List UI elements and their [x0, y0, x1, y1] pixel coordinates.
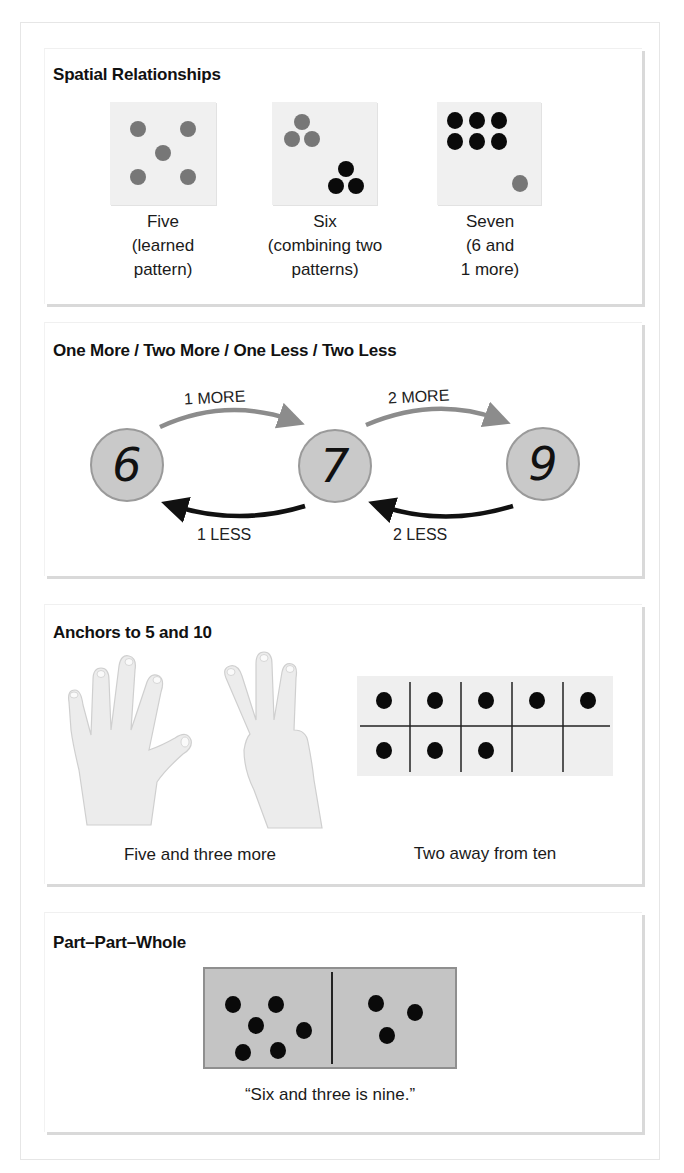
counter-dot — [427, 742, 443, 759]
two-more-arrow — [366, 409, 498, 425]
counter-dot — [529, 692, 545, 709]
panel-title: Anchors to 5 and 10 — [53, 623, 212, 643]
one-more-label: 1 MORE — [184, 387, 246, 408]
ten-frame-cell — [359, 726, 410, 775]
panel-title: Part–Part–Whole — [53, 933, 186, 953]
ten-frame-cell — [410, 726, 461, 775]
dot — [235, 1044, 251, 1061]
hand-five-icon — [65, 650, 195, 830]
one-more-arrow — [160, 410, 292, 427]
domino — [203, 967, 457, 1069]
dot — [225, 996, 241, 1013]
counter-dot — [376, 692, 392, 709]
number-circle-6: 6 — [90, 428, 164, 502]
ten-frame-cell — [359, 676, 410, 725]
ten-frame-cell — [512, 676, 563, 725]
counter-dot — [376, 742, 392, 759]
domino-divider — [331, 972, 333, 1064]
ten-frame-cell — [461, 676, 512, 725]
one-less-arrow — [174, 506, 305, 516]
dot — [268, 996, 284, 1013]
dot — [368, 995, 384, 1012]
ten-frame — [357, 676, 613, 776]
number-circle-7: 7 — [298, 429, 372, 503]
ten-frame-cell-empty — [563, 726, 614, 775]
ten-frame-cell — [461, 726, 512, 775]
tenframe-caption: Two away from ten — [375, 842, 595, 866]
two-more-label: 2 MORE — [388, 386, 450, 407]
one-less-label: 1 LESS — [197, 526, 251, 544]
hands-caption: Five and three more — [90, 843, 310, 867]
ten-frame-cell — [563, 676, 614, 725]
ten-frame-cell — [410, 676, 461, 725]
two-less-arrow — [381, 506, 513, 517]
dot — [379, 1027, 395, 1044]
hand-three-icon — [220, 650, 330, 830]
dot — [407, 1004, 423, 1021]
dot — [248, 1017, 264, 1034]
counter-dot — [580, 692, 596, 709]
dot — [296, 1022, 312, 1039]
counter-dot — [478, 692, 494, 709]
counter-dot — [427, 692, 443, 709]
ten-frame-cell-empty — [512, 726, 563, 775]
two-less-label: 2 LESS — [393, 526, 447, 544]
counter-dot — [478, 742, 494, 759]
part-whole-caption: “Six and three is nine.” — [190, 1083, 470, 1107]
number-circle-9: 9 — [506, 427, 580, 501]
dot — [270, 1042, 286, 1059]
